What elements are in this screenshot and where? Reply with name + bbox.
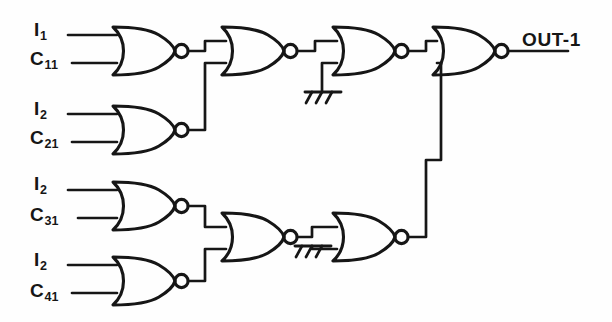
wire-gate3-to-gate6 [188, 206, 226, 227]
wire-gate7-to-gate9 [408, 41, 437, 51]
input-label-i2-a: I2 [34, 99, 47, 118]
gate-nor-7 [333, 27, 408, 75]
wire-gate7-to-ground [322, 63, 337, 92]
input-label-i2-b: I2 [34, 174, 47, 193]
wire-gate1-to-gate5 [188, 41, 226, 51]
gate-nor-3 [113, 182, 188, 230]
circuit-diagram-canvas: I1 C11 I2 C21 I2 C31 I2 C41 OUT-1 [0, 0, 612, 322]
gate-nor-4 [113, 257, 188, 305]
output-label-out-1: OUT-1 [522, 30, 581, 49]
input-label-c31: C31 [30, 205, 58, 224]
ground-symbol-upper [305, 92, 341, 103]
gate-nor-2 [113, 106, 188, 154]
gate-nor-1 [113, 27, 188, 75]
input-label-i1: I1 [34, 20, 47, 39]
input-label-i2-c: I2 [34, 250, 47, 269]
input-wires [68, 35, 117, 293]
wire-gate2-to-gate5 [188, 63, 226, 130]
input-label-c21: C21 [30, 128, 58, 147]
gate-nor-5 [222, 27, 297, 75]
wire-gate5-to-gate7 [297, 41, 337, 51]
input-label-c11: C11 [30, 49, 58, 68]
gate-nor-6 [222, 213, 297, 261]
schematic-svg [0, 0, 612, 322]
gate-nor-9 [433, 27, 508, 75]
wire-gate6-to-gate8 [297, 227, 337, 237]
wire-gate8-to-gate9 [408, 63, 441, 237]
input-label-c41: C41 [30, 281, 58, 300]
gate-nor-8 [333, 213, 408, 261]
wire-gate4-to-gate6 [188, 249, 226, 281]
